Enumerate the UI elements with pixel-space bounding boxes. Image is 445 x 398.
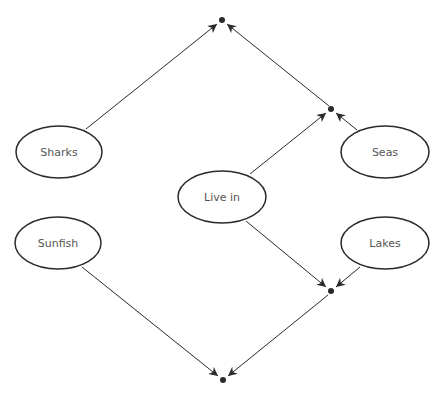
junction-dot-bottom xyxy=(220,377,226,383)
edge-seas-to-upperright xyxy=(336,113,357,130)
edge-lowerright-to-bottom xyxy=(228,295,328,376)
node-live-in: Live in xyxy=(178,171,266,223)
edge-sunfish-to-bottom xyxy=(82,267,218,376)
node-label-sharks: Sharks xyxy=(40,146,78,159)
node-sunfish: Sunfish xyxy=(15,217,101,269)
edge-sharks-to-top xyxy=(86,24,217,129)
node-label-seas: Seas xyxy=(372,146,398,159)
edge-upperright-to-top xyxy=(227,24,329,106)
semantic-network-diagram: Sharks Seas Live in Sunfish Lakes xyxy=(0,0,445,398)
edge-livein-to-lowerright xyxy=(246,221,326,287)
edge-livein-to-upperright xyxy=(250,113,326,174)
node-label-live-in: Live in xyxy=(204,191,240,204)
node-seas: Seas xyxy=(341,126,429,178)
node-lakes: Lakes xyxy=(341,217,429,269)
junction-dot-top xyxy=(219,17,225,23)
edge-lakes-to-lowerright xyxy=(336,267,360,287)
node-label-sunfish: Sunfish xyxy=(38,237,79,250)
junction-dot-lower-right xyxy=(328,288,334,294)
node-sharks: Sharks xyxy=(16,126,102,178)
node-label-lakes: Lakes xyxy=(369,237,401,250)
junction-dot-upper-right xyxy=(328,106,334,112)
